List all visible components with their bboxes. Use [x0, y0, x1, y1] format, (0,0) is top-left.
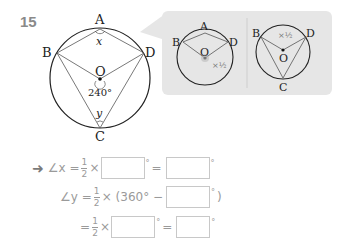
svg-text:y: y [95, 107, 103, 120]
svg-text:×½: ×½ [278, 31, 293, 40]
svg-text:B: B [42, 45, 52, 60]
hint-left-figure: A B D O ×½ [172, 20, 238, 85]
svg-text:C: C [95, 129, 105, 144]
arrow-icon: ➜ [32, 160, 44, 176]
angle-y-label: ∠y = [60, 190, 92, 204]
svg-text:×½: ×½ [212, 61, 227, 70]
answer-blank-3[interactable] [166, 186, 210, 208]
svg-text:D: D [229, 36, 238, 49]
svg-text:D: D [306, 27, 315, 40]
svg-text:C: C [279, 81, 287, 94]
solution-line-x: ➜ ∠x = 12 × ° = ° [32, 157, 217, 179]
angle-x-label: ∠x = [48, 161, 80, 175]
solution-line-y: ∠y = 12 × (360° − ° ) [60, 186, 222, 208]
fraction-half: 12 [92, 217, 98, 238]
svg-text:x: x [96, 35, 103, 48]
svg-text:O: O [279, 52, 288, 65]
geometry-figures: A B D O C x y 240° A B D O ×½ B D O C ×½ [0, 0, 343, 252]
main-circle-figure: A B D O C x y 240° [42, 12, 155, 144]
svg-text:240°: 240° [88, 87, 112, 98]
svg-text:D: D [145, 45, 155, 60]
answer-blank-4[interactable] [111, 216, 155, 238]
svg-text:O: O [95, 64, 106, 79]
fraction-half: 12 [81, 158, 87, 179]
fraction-half: 12 [94, 187, 100, 208]
answer-blank-5[interactable] [176, 216, 210, 238]
svg-text:A: A [94, 12, 105, 27]
answer-blank-2[interactable] [166, 157, 210, 179]
svg-text:O: O [200, 46, 209, 59]
solution-line-y2: = 12 × ° = ° [80, 216, 217, 238]
answer-blank-1[interactable] [101, 157, 145, 179]
svg-text:A: A [199, 20, 209, 33]
svg-text:B: B [172, 36, 180, 49]
hint-right-figure: B D O C ×½ [252, 25, 315, 94]
svg-text:B: B [252, 27, 260, 40]
